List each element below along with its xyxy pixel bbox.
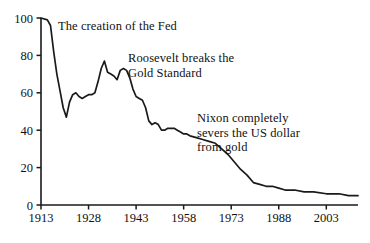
chart-container: 020406080100 191319281943195819731988200…	[0, 0, 370, 243]
chart-background	[0, 0, 370, 243]
line-chart-plot: 020406080100 191319281943195819731988200…	[0, 0, 370, 243]
annotation-roosevelt-gold-standard: Roosevelt breaks the Gold Standard	[128, 51, 234, 80]
annotation-nixon-severs-dollar-from-gold: Nixon completely severs the US dollar fr…	[197, 111, 300, 155]
y-axis-tick-label: 80	[21, 49, 34, 63]
x-axis-tick-label: 1958	[171, 211, 196, 225]
x-axis-tick-label: 1973	[219, 211, 244, 225]
annotation-line: The creation of the Fed	[58, 19, 177, 34]
x-axis-tick-label: 1988	[266, 211, 291, 225]
x-axis-tick-label: 2003	[314, 211, 339, 225]
annotation-line: Nixon completely	[197, 111, 300, 126]
y-axis-tick-label: 100	[14, 12, 33, 26]
y-axis-tick-label: 20	[21, 161, 34, 175]
y-axis-tick-label: 40	[21, 124, 34, 138]
x-axis-tick-label: 1928	[76, 211, 101, 225]
annotation-line: Roosevelt breaks the	[128, 51, 234, 66]
x-axis-tick-label: 1913	[29, 211, 54, 225]
annotation-line: Gold Standard	[128, 66, 234, 81]
annotation-line: from gold	[197, 140, 300, 155]
annotation-creation-of-the-fed: The creation of the Fed	[58, 19, 177, 34]
annotation-line: severs the US dollar	[197, 126, 300, 141]
y-axis-tick-label: 60	[21, 86, 34, 100]
x-axis-tick-label: 1943	[124, 211, 149, 225]
